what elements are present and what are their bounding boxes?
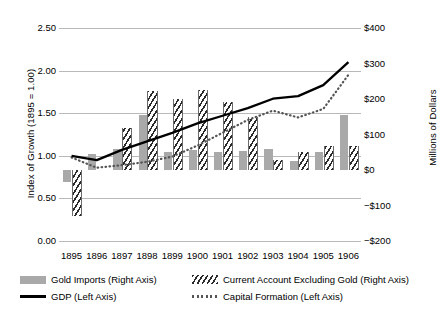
left-axis-tick-label: 2.00 — [22, 66, 56, 76]
legend-item-current-account: Current Account Excluding Gold (Right Ax… — [192, 274, 409, 285]
plot-area — [59, 28, 361, 241]
line-series-layer — [59, 28, 361, 241]
chart-container: Index of Growth (1895 = 1.00) Millions o… — [0, 0, 448, 316]
x-axis-ticks: 1895189618971898189919001901190219031904… — [0, 250, 448, 262]
right-axis-tick-label: $200 — [364, 94, 404, 104]
legend-label-gold-imports: Gold Imports (Right Axis) — [51, 274, 157, 285]
legend-label-current-account: Current Account Excluding Gold (Right Ax… — [223, 274, 409, 285]
legend-item-gdp: GDP (Left Axis) — [20, 291, 116, 302]
left-axis-tick-label: 2.50 — [22, 23, 56, 33]
right-axis-tick-label: $100 — [364, 130, 404, 140]
left-axis-tick-label: 0.50 — [22, 193, 56, 203]
right-axis-tick-label: −$100 — [364, 201, 404, 211]
legend-label-capital-formation: Capital Formation (Left Axis) — [223, 291, 343, 302]
right-axis-ticks: −$200−$100$0$100$200$300$400 — [364, 0, 404, 316]
left-axis-tick-label: 0.00 — [22, 236, 56, 246]
right-axis-tick-label: $400 — [364, 23, 404, 33]
line-gdp — [72, 62, 349, 160]
legend-item-gold-imports: Gold Imports (Right Axis) — [20, 274, 157, 285]
right-axis-tick-label: $300 — [364, 59, 404, 69]
left-axis-tick-label: 1.50 — [22, 108, 56, 118]
left-axis-ticks: 0.000.501.001.502.002.50 — [22, 0, 56, 316]
legend-item-capital-formation: Capital Formation (Left Axis) — [192, 291, 343, 302]
gold-imports-swatch — [20, 276, 46, 284]
right-axis-tick-label: $0 — [364, 165, 404, 175]
right-axis-tick-label: −$200 — [364, 236, 404, 246]
right-axis-title: Millions of Dollars — [427, 58, 438, 198]
x-axis-tick-label: 1906 — [333, 250, 363, 261]
left-axis-tick-label: 1.00 — [22, 151, 56, 161]
legend-label-gdp: GDP (Left Axis) — [51, 291, 116, 302]
chart-legend: Gold Imports (Right Axis) Current Accoun… — [20, 274, 440, 308]
gridline — [59, 241, 361, 242]
current-account-swatch — [192, 275, 218, 284]
gdp-line-swatch — [20, 295, 46, 298]
capital-formation-line-swatch — [192, 295, 218, 298]
